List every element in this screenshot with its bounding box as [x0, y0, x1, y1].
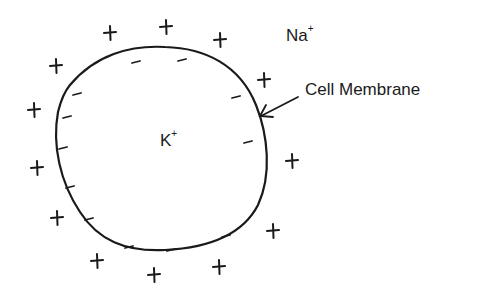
outside-positive-charges — [28, 20, 298, 282]
minus-sign-icon — [232, 96, 240, 98]
potassium-ion-charge: + — [171, 128, 177, 139]
plus-sign-icon — [286, 154, 298, 168]
plus-sign-icon — [50, 59, 62, 73]
cell-membrane-label: Cell Membrane — [305, 80, 420, 100]
plus-sign-icon — [213, 260, 225, 274]
plus-sign-icon — [258, 73, 270, 87]
sodium-ion-symbol: Na — [286, 26, 308, 45]
plus-sign-icon — [51, 211, 63, 225]
minus-sign-icon — [222, 235, 230, 237]
sodium-ion-charge: + — [308, 23, 314, 34]
sodium-ion-label: Na+ — [286, 26, 314, 46]
plus-sign-icon — [214, 33, 226, 47]
minus-sign-icon — [132, 61, 140, 63]
membrane-pointer-arrow — [260, 97, 298, 117]
minus-sign-icon — [59, 147, 67, 149]
minus-sign-icon — [73, 93, 81, 95]
minus-sign-icon — [244, 141, 252, 143]
plus-sign-icon — [160, 20, 172, 34]
plus-sign-icon — [148, 268, 160, 282]
potassium-ion-symbol: K — [160, 131, 171, 150]
minus-sign-icon — [85, 218, 93, 220]
plus-sign-icon — [28, 103, 40, 117]
minus-sign-icon — [63, 116, 71, 118]
plus-sign-icon — [104, 26, 116, 40]
potassium-ion-label: K+ — [160, 131, 177, 151]
plus-sign-icon — [267, 224, 279, 238]
minus-sign-icon — [178, 59, 186, 61]
plus-sign-icon — [31, 161, 43, 175]
plus-sign-icon — [91, 254, 103, 268]
cell-membrane-diagram — [0, 0, 486, 298]
